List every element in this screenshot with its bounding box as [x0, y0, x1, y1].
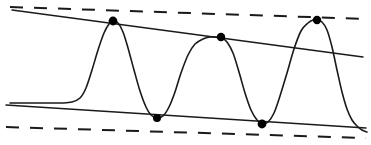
oscillation-envelope-figure — [0, 0, 371, 145]
extremum-marker-trough-2 — [258, 120, 267, 129]
extremum-marker-peak-1 — [109, 17, 118, 26]
plot-canvas — [0, 0, 371, 145]
extremum-marker-peak-2 — [217, 33, 225, 41]
extremum-marker-peak-3 — [313, 16, 321, 24]
extremum-marker-trough-1 — [153, 114, 161, 122]
